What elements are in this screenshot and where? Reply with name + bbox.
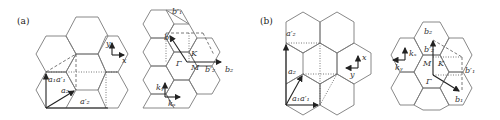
panel-a-label: (a) xyxy=(17,16,29,26)
panel-b-reciprocal-space: b₂ b′₂ M K Γ b′₁ b₁ kₓ kᵧ xyxy=(391,22,475,110)
svg-text:kₓ: kₓ xyxy=(409,49,417,58)
label-a1-a1prime-b: a₁a′₁ xyxy=(292,94,310,103)
label-b2-b: b₂ xyxy=(424,27,432,36)
label-b2-prime-b: b′₂ xyxy=(424,45,434,54)
vector-a2 xyxy=(46,91,74,108)
label-b1-b: b₁ xyxy=(455,95,463,104)
label-a2-prime-b: a′₂ xyxy=(286,29,296,38)
label-a2-b: a₂ xyxy=(288,67,296,76)
label-b2: b₂ xyxy=(225,65,233,74)
label-K-b: K xyxy=(437,59,445,68)
svg-text:kₓ: kₓ xyxy=(168,99,176,108)
panel-a-reciprocal-space: b′₁ b₁ K Γ M b′₂ b₂ kᵧ kₓ xyxy=(143,7,233,108)
label-b1-prime: b′₁ xyxy=(172,7,182,16)
label-a1-a1prime: a₁a′₁ xyxy=(48,75,66,84)
label-K: K xyxy=(190,49,198,58)
label-b2-prime: b′₂ xyxy=(205,65,215,74)
axes-icon-a-real: y x xyxy=(105,39,127,65)
label-a2-prime: a′₂ xyxy=(80,97,90,106)
svg-text:kᵧ: kᵧ xyxy=(156,83,164,92)
svg-text:kᵧ: kᵧ xyxy=(395,63,403,72)
lattice-diagram: (a) a₁a′₁ a₂ a′₂ y x xyxy=(0,0,500,120)
axes-icon-a-reciprocal: kᵧ kₓ xyxy=(156,83,180,108)
panel-b-real-space: (b) a′₂ a₂ a₁a′₁ x y xyxy=(260,12,371,115)
panel-b-label: (b) xyxy=(260,16,273,26)
axes-icon-b-real: x y xyxy=(346,53,367,79)
panel-a-real-space: (a) a₁a′₁ a₂ a′₂ y x xyxy=(17,16,128,108)
label-M-b: M xyxy=(422,59,432,68)
label-b1: b₁ xyxy=(164,33,172,42)
label-gamma-b: Γ xyxy=(425,77,432,86)
label-a2: a₂ xyxy=(61,86,69,95)
svg-text:y: y xyxy=(105,39,111,48)
svg-text:x: x xyxy=(122,56,127,65)
hexagon-grid-a-real xyxy=(36,17,128,108)
label-gamma: Γ xyxy=(175,59,182,68)
label-b1-prime-b: b′₁ xyxy=(465,66,475,75)
svg-text:x: x xyxy=(362,53,367,62)
svg-text:y: y xyxy=(349,70,355,79)
axes-icon-b-reciprocal: kₓ kᵧ xyxy=(393,48,417,72)
label-M: M xyxy=(190,63,200,72)
